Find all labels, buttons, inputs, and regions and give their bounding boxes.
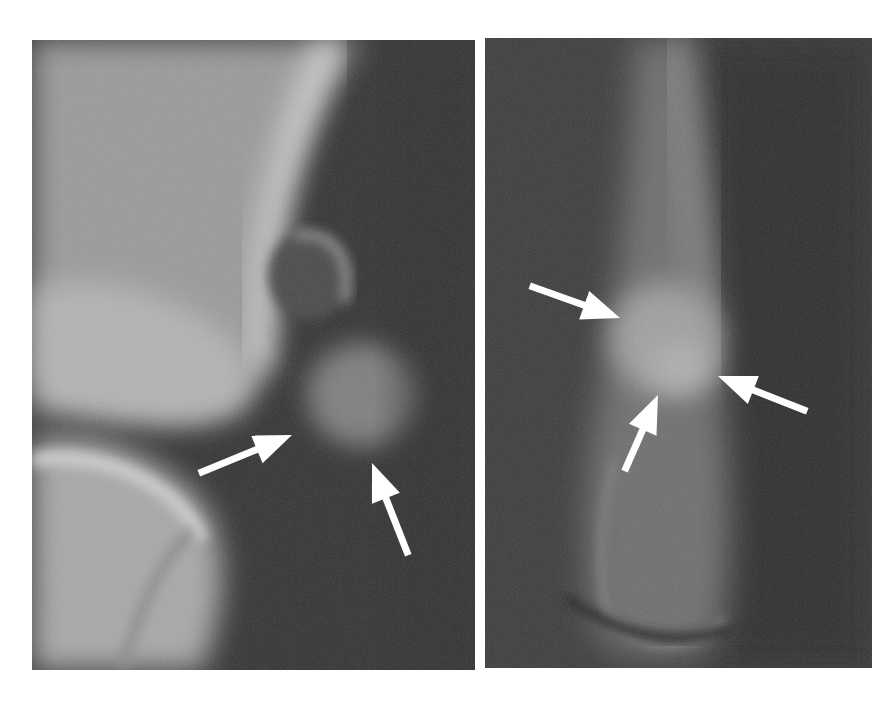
radiograph-figure [0,0,889,707]
left-xray-image [32,40,475,670]
right-xray-image [485,38,872,668]
radiograph-panel-right [485,38,872,668]
radiograph-panel-left [32,40,475,670]
